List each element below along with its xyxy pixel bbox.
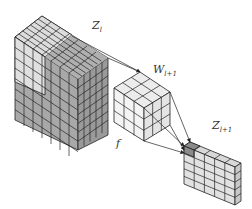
label-activation: f xyxy=(116,138,120,149)
label-output-layer: Zl+1 xyxy=(212,120,232,134)
arrow-kernel-to-output-4 xyxy=(144,141,184,153)
convolution-diagram xyxy=(0,0,252,209)
arrow-kernel-to-output-1 xyxy=(170,92,190,142)
label-kernel: Wl+1 xyxy=(153,64,177,78)
arrow-kernel-to-output-3 xyxy=(170,125,184,150)
arrow-input-to-kernel xyxy=(108,58,140,72)
label-input-layer: Zl xyxy=(92,20,102,34)
